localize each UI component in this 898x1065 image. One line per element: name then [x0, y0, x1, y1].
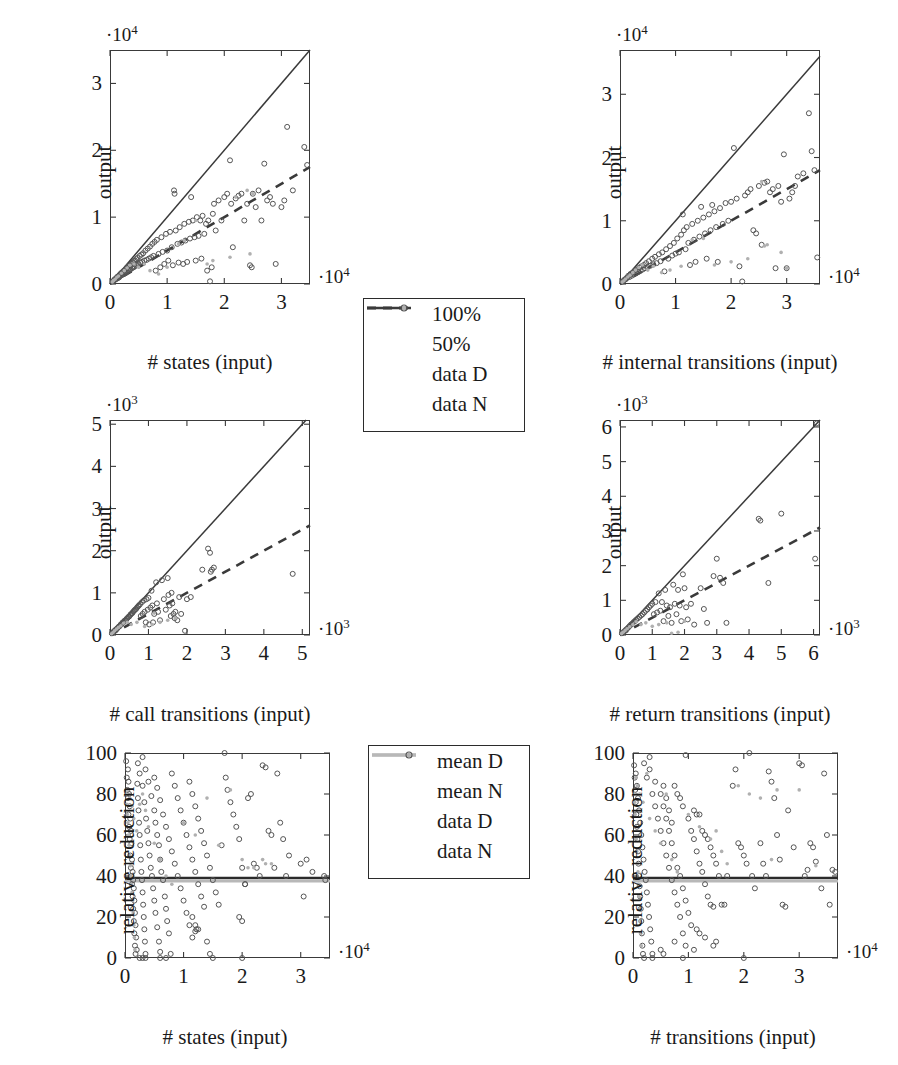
x-tick-label: 2: [726, 290, 737, 315]
series-data-d: [124, 751, 328, 961]
y-tick-label: 100: [77, 741, 117, 766]
x-tick-label: 3: [794, 964, 805, 989]
legend-label: mean N: [431, 779, 503, 804]
y-tick-label: 20: [585, 905, 625, 930]
panel-call-transitions-output: ·103 ·103 # call transitions (input) out…: [110, 420, 310, 635]
legend-row: data D: [369, 806, 529, 836]
y-tick-label: 20: [77, 905, 117, 930]
x-tick-label: 0: [628, 964, 639, 989]
x-tick-label: 1: [143, 641, 154, 666]
y-tick-label: 0: [572, 623, 612, 648]
y-tick-label: 2: [572, 553, 612, 578]
x-tick-label: 4: [744, 641, 755, 666]
y-tick-label: 0: [572, 272, 612, 297]
y-axis-title: output: [92, 83, 117, 263]
x-tick-label: 0: [105, 641, 116, 666]
y-tick-label: 0: [62, 272, 102, 297]
x-exponent-label: ·103: [828, 616, 860, 640]
legend-label: data D: [431, 809, 492, 834]
y-tick-label: 100: [585, 741, 625, 766]
legend-label: mean D: [431, 749, 503, 774]
series-data-d: [110, 124, 309, 283]
y-tick-label: 0: [77, 946, 117, 971]
x-tick-label: 2: [219, 290, 230, 315]
y-tick-label: 3: [572, 518, 612, 543]
series-data-d: [632, 751, 838, 961]
y-tick-label: 1: [62, 205, 102, 230]
x-exponent-label: ·104: [846, 939, 878, 963]
reference-line-100pct: [110, 50, 310, 284]
x-tick-label: 2: [679, 641, 690, 666]
x-axis-title: # states (input): [163, 1025, 288, 1050]
x-tick-label: 6: [808, 641, 819, 666]
series-data-d: [620, 111, 819, 284]
x-tick-label: 1: [683, 964, 694, 989]
x-tick-label: 3: [276, 290, 287, 315]
scatter-canvas: [110, 50, 310, 284]
x-tick-label: 0: [615, 641, 626, 666]
y-tick-label: 40: [77, 864, 117, 889]
x-axis-title: # transitions (input): [650, 1025, 816, 1050]
y-exponent-label: ·103: [616, 392, 648, 416]
y-axis-title: output: [602, 83, 627, 263]
series-data-n: [632, 772, 817, 948]
x-tick-label: 4: [259, 641, 270, 666]
panel-return-transitions-output: ·103 ·103 # return transitions (input) o…: [620, 420, 820, 635]
y-tick-label: 3: [62, 71, 102, 96]
x-exponent-label: ·104: [338, 939, 370, 963]
y-tick-label: 6: [572, 414, 612, 439]
panel-transitions-relative-reduction: ·104 # transitions (input) relative redu…: [633, 753, 838, 958]
x-tick-label: 5: [776, 641, 787, 666]
reference-line-50pct: [620, 528, 820, 636]
x-tick-label: 3: [220, 641, 231, 666]
x-tick-label: 2: [739, 964, 750, 989]
legend-row: data D: [364, 359, 524, 389]
y-tick-label: 5: [62, 412, 102, 437]
panel-internal-transitions-output: ·104 ·104 # internal transitions (input)…: [620, 50, 820, 284]
y-tick-label: 4: [572, 484, 612, 509]
y-tick-label: 0: [62, 623, 102, 648]
legend-mean: mean Dmean Ndata Ddata N: [368, 745, 530, 879]
y-tick-label: 1: [62, 580, 102, 605]
y-tick-label: 60: [77, 823, 117, 848]
series-data-n: [620, 619, 687, 635]
y-tick-label: 2: [572, 145, 612, 170]
y-tick-label: 3: [572, 82, 612, 107]
x-tick-label: 0: [615, 290, 626, 315]
x-tick-label: 1: [178, 964, 189, 989]
scatter-canvas: [620, 50, 820, 284]
scatter-canvas: [620, 420, 820, 635]
x-tick-label: 0: [105, 290, 116, 315]
scatter-canvas: [110, 420, 310, 635]
x-tick-label: 1: [670, 290, 681, 315]
y-tick-label: 80: [77, 782, 117, 807]
legend-row: data N: [369, 836, 529, 866]
x-tick-label: 2: [237, 964, 248, 989]
legend-row: 50%: [364, 329, 524, 359]
x-axis-title: # states (input): [148, 350, 273, 375]
panel-states-output: ·104 ·104 # states (input) output 012301…: [110, 50, 310, 284]
x-axis-title: # internal transitions (input): [602, 350, 837, 375]
panel-states-relative-reduction: ·104 # states (input) relative reduction…: [125, 753, 330, 958]
legend-row: data N: [364, 389, 524, 419]
legend-row: mean N: [369, 776, 529, 806]
y-tick-label: 60: [585, 823, 625, 848]
legend-label: data N: [426, 392, 487, 417]
y-tick-label: 40: [585, 864, 625, 889]
legend-label: data N: [431, 839, 492, 864]
y-tick-label: 1: [572, 208, 612, 233]
legend-label: 50%: [426, 332, 471, 357]
y-tick-label: 5: [572, 449, 612, 474]
scatter-canvas: [125, 753, 330, 958]
y-exponent-label: ·104: [106, 22, 138, 46]
x-tick-label: 5: [297, 641, 308, 666]
x-tick-label: 0: [120, 964, 131, 989]
legend-ratio: 100%50%data Ddata N: [363, 298, 525, 432]
y-tick-label: 2: [62, 138, 102, 163]
scatter-canvas: [633, 753, 838, 958]
x-exponent-label: ·104: [318, 264, 350, 288]
y-exponent-label: ·103: [106, 392, 138, 416]
x-exponent-label: ·104: [828, 264, 860, 288]
legend-label: 100%: [426, 302, 481, 327]
x-tick-label: 3: [781, 290, 792, 315]
